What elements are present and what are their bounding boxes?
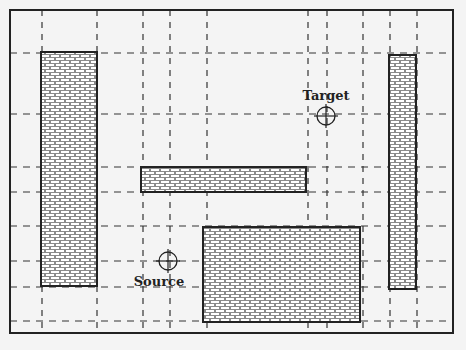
- source-label: Source: [134, 274, 185, 289]
- obstacles: [41, 52, 416, 322]
- path-planning-diagram: Target Source: [0, 0, 466, 350]
- obstacle-right: [389, 55, 416, 289]
- source-marker: Source: [134, 249, 185, 289]
- obstacle-bottom-block: [203, 227, 360, 322]
- obstacle-left: [41, 52, 97, 286]
- obstacle-middle-bar: [141, 167, 306, 192]
- target-marker: Target: [302, 88, 349, 128]
- target-label: Target: [302, 88, 349, 103]
